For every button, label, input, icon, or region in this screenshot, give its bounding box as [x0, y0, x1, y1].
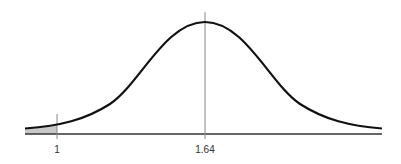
tick-label-1: 1	[54, 144, 60, 155]
tick-label-mean: 1.64	[195, 144, 214, 155]
normal-curve-chart	[0, 0, 401, 164]
density-curve	[25, 22, 382, 129]
